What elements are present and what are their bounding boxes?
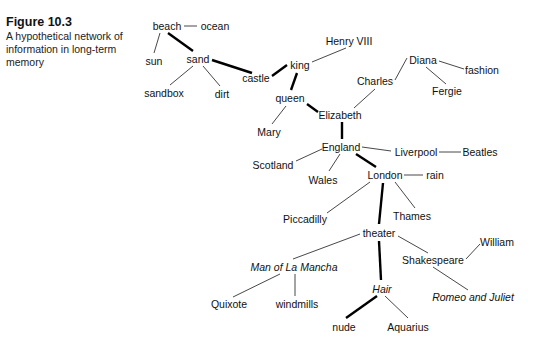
node-mancha: Man of La Mancha bbox=[251, 261, 338, 273]
edge-beach-sand bbox=[168, 33, 193, 51]
node-ocean: ocean bbox=[201, 20, 230, 32]
node-shakespeare: Shakespeare bbox=[402, 254, 464, 266]
node-mary: Mary bbox=[257, 126, 280, 138]
edge-diana-fergie bbox=[426, 67, 446, 84]
edge-theater-hair bbox=[379, 241, 381, 280]
node-quixote: Quixote bbox=[211, 298, 247, 310]
node-elizabeth: Elizabeth bbox=[318, 109, 361, 121]
edge-theater-mancha bbox=[293, 234, 360, 259]
edge-england-london bbox=[356, 154, 376, 167]
edge-elizabeth-charles bbox=[354, 89, 375, 108]
node-rain: rain bbox=[426, 169, 444, 181]
edge-castle-king bbox=[272, 65, 287, 76]
node-king: king bbox=[290, 59, 309, 71]
node-henry: Henry VIII bbox=[326, 35, 373, 47]
node-london: London bbox=[367, 169, 402, 181]
edge-england-scotland bbox=[296, 149, 322, 161]
node-theater: theater bbox=[363, 227, 396, 239]
node-dirt: dirt bbox=[215, 88, 230, 100]
edge-queen-elizabeth bbox=[307, 104, 318, 112]
edge-charles-diana bbox=[395, 58, 407, 80]
node-scotland: Scotland bbox=[253, 159, 294, 171]
edge-england-wales bbox=[329, 154, 340, 171]
node-diana: Diana bbox=[409, 54, 436, 66]
node-romeo: Romeo and Juliet bbox=[432, 291, 514, 303]
edge-hair-nude bbox=[346, 296, 377, 318]
node-castle: castle bbox=[242, 72, 269, 84]
node-beatles: Beatles bbox=[462, 146, 497, 158]
node-beach: beach bbox=[153, 20, 182, 32]
node-charles: Charles bbox=[357, 75, 393, 87]
node-william: William bbox=[480, 236, 514, 248]
node-windmills: windmills bbox=[276, 298, 319, 310]
node-aquarius: Aquarius bbox=[387, 321, 428, 333]
node-liverpool: Liverpool bbox=[395, 146, 438, 158]
node-hair: Hair bbox=[372, 283, 391, 295]
node-sun: sun bbox=[146, 55, 163, 67]
edge-theater-shakespeare bbox=[398, 236, 428, 253]
node-fergie: Fergie bbox=[432, 85, 462, 97]
edge-shakespeare-romeo bbox=[433, 267, 468, 290]
edge-london-piccadilly bbox=[327, 182, 370, 213]
node-fashion: fashion bbox=[465, 64, 499, 76]
node-nude: nude bbox=[332, 321, 355, 333]
node-queen: queen bbox=[275, 92, 304, 104]
node-sandbox: sandbox bbox=[144, 87, 184, 99]
edge-england-liverpool bbox=[362, 147, 391, 151]
edge-diana-fashion bbox=[439, 61, 464, 69]
node-wales: Wales bbox=[309, 174, 338, 186]
edge-king-queen bbox=[291, 73, 297, 90]
edge-sand-dirt bbox=[203, 66, 220, 86]
node-sand: sand bbox=[187, 53, 210, 65]
edge-queen-mary bbox=[272, 106, 286, 124]
edge-shakespeare-william bbox=[466, 244, 480, 259]
edge-london-theater bbox=[379, 183, 383, 224]
edge-king-henry bbox=[312, 48, 346, 62]
node-thames: Thames bbox=[393, 210, 431, 222]
edge-beach-sun bbox=[154, 33, 160, 53]
node-piccadilly: Piccadilly bbox=[283, 213, 327, 225]
edge-london-thames bbox=[395, 182, 415, 208]
edge-sand-sandbox bbox=[170, 66, 193, 85]
edge-hair-aquarius bbox=[385, 296, 408, 318]
node-england: England bbox=[322, 141, 361, 153]
edge-mancha-quixote bbox=[233, 274, 280, 297]
